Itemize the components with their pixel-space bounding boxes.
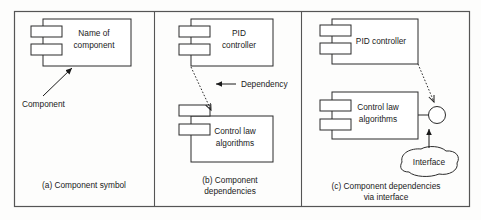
interface-circle-icon: [429, 107, 446, 124]
control-law-algorithms-label-line1: Control law: [214, 126, 257, 136]
control-law-algorithms-label-line1: Control law: [357, 102, 400, 112]
pid-controller-stub-lower: [320, 43, 351, 54]
panel-c: PID controller Control law algorithms In…: [320, 19, 458, 202]
panel-a-caption: (a) Component symbol: [42, 180, 126, 190]
panel-b-caption-line2: dependencies: [204, 186, 256, 196]
control-law-algorithms-stub-lower: [179, 124, 210, 135]
panel-b-caption-line1: (b) Component: [202, 175, 258, 185]
pid-controller-label-line1: PID: [232, 28, 246, 38]
component-symbol-stub-lower: [31, 44, 62, 55]
panel-b: PID controller Control law algorithms De…: [179, 19, 288, 196]
control-law-algorithms-stub-upper: [320, 100, 351, 111]
component-symbol-label-line2: component: [73, 40, 115, 50]
pid-controller-stub-upper: [320, 25, 351, 36]
interface-annotation-label: Interface: [413, 157, 446, 167]
component-annotation-leader: [43, 68, 72, 96]
control-law-algorithms-label-line2: algorithms: [359, 114, 397, 124]
component-symbol-stub-upper: [31, 26, 62, 37]
control-law-algorithms-stub-upper: [179, 105, 210, 116]
pid-controller-stub-upper: [179, 26, 210, 37]
pid-controller-stub-lower: [179, 44, 210, 55]
pid-controller-label-line2: controller: [222, 40, 256, 50]
dependency-arrow: [418, 64, 434, 102]
pid-controller-label: PID controller: [356, 36, 406, 46]
component-diagram-figure: Name of component Component (a) Componen…: [0, 0, 481, 220]
component-annotation-label: Component: [22, 99, 66, 109]
dependency-annotation-label: Dependency: [241, 79, 288, 89]
panel-c-caption-line2: via interface: [364, 192, 409, 202]
panel-a: Name of component Component (a) Componen…: [22, 19, 131, 190]
diagram-canvas: Name of component Component (a) Componen…: [0, 0, 481, 220]
component-symbol-label-line1: Name of: [78, 28, 110, 38]
control-law-algorithms-label-line2: algorithms: [216, 138, 254, 148]
dependency-arrow: [191, 67, 211, 110]
control-law-algorithms-stub-lower: [320, 119, 351, 130]
panel-c-caption-line1: (c) Component dependencies: [332, 181, 441, 191]
